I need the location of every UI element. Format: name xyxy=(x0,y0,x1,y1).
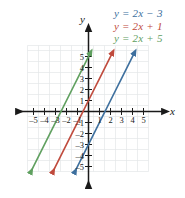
x-axis-label: x xyxy=(169,105,175,117)
x-tick-label: –4 xyxy=(39,115,49,125)
x-tick-label: 2 xyxy=(108,115,112,125)
legend-entry-green: y = 2x + 5 xyxy=(114,32,163,45)
graph-figure: –5 –4 –3 –2 –1 1 2 3 4 5 5 4 3 2 1 –1 –2… xyxy=(0,0,185,198)
y-tick-label: –4 xyxy=(75,151,85,161)
y-tick-label: –3 xyxy=(75,140,85,150)
legend: y = 2x − 3 y = 2x + 1 y = 2x + 5 xyxy=(114,7,163,45)
y-tick-label: 5 xyxy=(80,52,84,62)
legend-entry-blue: y = 2x − 3 xyxy=(114,7,163,20)
y-tick-label: 2 xyxy=(80,85,84,95)
y-axis-label: y xyxy=(79,13,85,25)
x-tick-label: 3 xyxy=(119,115,123,125)
y-tick-label: 3 xyxy=(80,74,84,84)
y-tick-label: –1 xyxy=(75,118,85,128)
y-tick-label: –2 xyxy=(75,129,85,139)
x-tick-label: –3 xyxy=(50,115,60,125)
legend-entry-red: y = 2x + 1 xyxy=(114,20,163,33)
x-tick-label: –2 xyxy=(61,115,71,125)
y-tick-label: –5 xyxy=(75,162,85,172)
x-tick-label: –5 xyxy=(28,115,38,125)
axis-lines xyxy=(19,28,165,185)
y-tick-label: 1 xyxy=(80,96,84,106)
x-tick-label: 1 xyxy=(97,115,101,125)
x-tick-label: 5 xyxy=(141,115,145,125)
